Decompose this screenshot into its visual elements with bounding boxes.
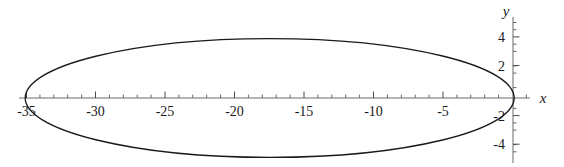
y-tick-label-2: 2 [498,59,505,74]
plot-canvas: -35 -30 -25 -20 -15 -10 -5 4 2 -2 -4 y x [0,0,564,167]
x-axis-minor-ticks [26,95,526,99]
y-axis-label: y [501,3,510,19]
x-tick-label-minus5: -5 [437,104,449,119]
x-tick-label-minus30: -30 [86,104,105,119]
x-axis-label: x [539,90,547,106]
y-axis-major-ticks [513,37,520,144]
y-tick-label-minus2: -2 [493,109,505,124]
x-tick-label-minus35: -35 [17,104,36,119]
y-axis-minor-ticks [513,23,517,152]
x-tick-label-minus15: -15 [295,104,314,119]
x-tick-label-minus20: -20 [225,104,244,119]
ellipse-plot-figure: -35 -30 -25 -20 -15 -10 -5 4 2 -2 -4 y x [0,0,564,167]
x-tick-label-minus25: -25 [156,104,175,119]
x-axis-major-ticks [27,92,444,99]
x-tick-label-minus10: -10 [364,104,383,119]
y-tick-label-minus4: -4 [493,137,505,152]
y-tick-label-4: 4 [498,30,505,45]
